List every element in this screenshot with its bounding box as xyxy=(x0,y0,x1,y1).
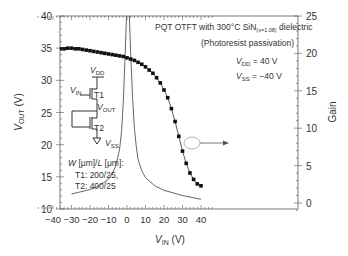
x-axis-label: VIN (V) xyxy=(155,234,185,246)
svg-text:0: 0 xyxy=(124,214,129,225)
right-y-axis-label: Gain xyxy=(327,101,338,122)
wl-heading: W [μm]/L [μm]: xyxy=(68,158,124,168)
arrowhead-icon xyxy=(223,141,229,146)
svg-text:40: 40 xyxy=(41,11,53,22)
left-y-axis-label: VOUT (V) xyxy=(13,93,25,131)
t2-size: T2: 400/25 xyxy=(75,181,116,191)
svg-text:20: 20 xyxy=(159,214,170,225)
svg-text:30: 30 xyxy=(41,75,53,86)
vout-node-label: VOUT xyxy=(97,102,116,113)
svg-text:35: 35 xyxy=(41,43,53,54)
svg-text:40: 40 xyxy=(196,214,207,225)
chart-title: PQT OTFT with 300°C SiN(x=1.08) dielectr… xyxy=(155,22,313,33)
t2-label: T2 xyxy=(94,123,104,133)
chart-subtitle: (Photoresist passivation) xyxy=(201,38,294,48)
svg-text:10: 10 xyxy=(41,204,53,215)
svg-text:15: 15 xyxy=(306,86,318,97)
vdd-annotation: VDD = 40 V xyxy=(236,56,278,67)
svg-text:20: 20 xyxy=(41,140,53,151)
svg-text:0: 0 xyxy=(306,198,312,209)
gain-curve-marker-icon xyxy=(184,137,200,149)
right-y-axis: 0510152025 xyxy=(294,11,318,210)
vdd-label: VDD xyxy=(90,65,105,76)
vin-label: VIN xyxy=(70,85,82,96)
svg-text:−10: −10 xyxy=(100,214,116,225)
svg-text:25: 25 xyxy=(306,11,318,22)
svg-text:25: 25 xyxy=(41,108,53,119)
svg-text:30: 30 xyxy=(177,214,188,225)
svg-text:−30: −30 xyxy=(63,214,79,225)
t1-size: T1: 200/25, xyxy=(75,170,118,180)
vss-annotation: VSS = −40 V xyxy=(236,71,282,82)
svg-text:10: 10 xyxy=(140,214,151,225)
svg-text:−40: −40 xyxy=(45,214,61,225)
t1-label: T1 xyxy=(94,90,104,100)
svg-text:10: 10 xyxy=(306,123,318,134)
svg-text:15: 15 xyxy=(41,172,53,183)
svg-text:−20: −20 xyxy=(82,214,98,225)
chart: −40−30−20−10010203040 10152025303540 051… xyxy=(0,0,348,256)
svg-text:20: 20 xyxy=(306,48,318,59)
svg-text:5: 5 xyxy=(306,161,312,172)
left-y-axis: 10152025303540 xyxy=(41,11,64,215)
vss-label: VSS xyxy=(105,138,119,149)
